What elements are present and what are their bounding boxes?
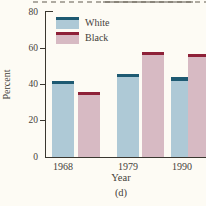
bar-black-1968	[78, 92, 100, 157]
y-tick-label: 20	[12, 116, 38, 125]
x-axis-title: Year	[101, 172, 141, 183]
bar-cap	[117, 74, 139, 78]
legend-item-white: White	[56, 17, 109, 29]
bar-chart: Percent 020406080 196819791990 WhiteBlac…	[0, 0, 206, 206]
y-axis-top-tick	[46, 11, 53, 12]
bar-black-1979	[142, 52, 164, 157]
legend-swatch	[56, 17, 79, 29]
bar-white-1979	[117, 74, 139, 157]
y-axis-title: Percent	[1, 55, 12, 115]
x-tick-label: 1979	[108, 161, 148, 172]
y-tick-label: 0	[12, 153, 38, 162]
legend-swatch-fill	[56, 35, 79, 44]
legend-label: White	[85, 17, 109, 29]
legend: WhiteBlack	[56, 17, 109, 47]
figure-caption: (d)	[103, 187, 139, 198]
y-tick-label: 80	[12, 8, 38, 17]
bar-white-1968	[52, 81, 74, 157]
legend-label: Black	[85, 32, 108, 44]
x-tick-label: 1968	[43, 161, 83, 172]
y-tick-label: 40	[12, 80, 38, 89]
x-tick-label: 1990	[162, 161, 202, 172]
y-axis-line	[45, 11, 46, 157]
figure-panel-d: Percent 020406080 196819791990 WhiteBlac…	[0, 0, 206, 206]
legend-item-black: Black	[56, 32, 109, 44]
bar-cap	[52, 81, 74, 85]
bar-cap	[142, 52, 164, 56]
legend-swatch	[56, 32, 79, 44]
y-tick-label: 60	[12, 44, 38, 53]
bar-cap	[78, 92, 100, 96]
x-axis-line	[45, 157, 206, 159]
bar-black-1990	[188, 54, 206, 157]
legend-swatch-fill	[56, 20, 79, 29]
bar-cap	[188, 54, 206, 58]
